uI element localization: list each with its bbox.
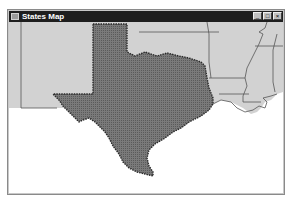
minimize-button[interactable]: _: [253, 12, 262, 20]
map-canvas[interactable]: [9, 22, 283, 193]
states-map-window: States Map _ □ ×: [7, 9, 285, 195]
maximize-button[interactable]: □: [263, 12, 272, 20]
window-title: States Map: [22, 11, 64, 22]
window-controls: _ □ ×: [252, 12, 282, 20]
close-button[interactable]: ×: [273, 12, 282, 20]
app-icon[interactable]: [11, 13, 19, 20]
title-bar[interactable]: States Map _ □ ×: [9, 11, 283, 22]
